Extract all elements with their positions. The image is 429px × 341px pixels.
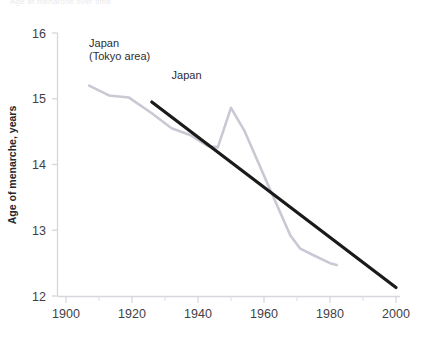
series-label-line: Japan — [89, 37, 119, 49]
y-axis-title: Age of menarche, years — [6, 106, 18, 225]
x-tick-label: 2000 — [382, 307, 410, 321]
line-chart: 1213141516 190019201940196019802000 Age … — [0, 0, 429, 341]
y-tick-label: 12 — [32, 290, 46, 304]
series-label-line: (Tokyo area) — [89, 50, 150, 62]
series-annotations: Japan(Tokyo area)Japan — [89, 37, 201, 81]
y-tick-label: 14 — [32, 158, 46, 172]
axis-lines — [58, 33, 401, 297]
x-tick-label: 1920 — [118, 307, 146, 321]
chart-figure: Age at menarche over time 1213141516 190… — [0, 0, 429, 341]
x-tick-label: 1940 — [184, 307, 212, 321]
y-axis-tick-labels: 1213141516 — [32, 27, 46, 304]
series-lines — [89, 86, 396, 288]
x-tick-label: 1900 — [52, 307, 80, 321]
cut-off-header: Age at menarche over time — [10, 0, 111, 6]
x-tick-label: 1980 — [316, 307, 344, 321]
x-tick-label: 1960 — [250, 307, 278, 321]
y-tick-label: 16 — [32, 27, 46, 41]
y-tick-label: 13 — [32, 224, 46, 238]
series-line — [89, 86, 337, 266]
x-axis-tick-labels: 190019201940196019802000 — [52, 307, 410, 321]
x-axis-minor-ticks — [99, 297, 363, 302]
series-line — [152, 102, 396, 287]
series-label: Japan(Tokyo area) — [89, 37, 150, 62]
y-axis-ticks — [52, 33, 58, 296]
y-tick-label: 15 — [32, 92, 46, 106]
series-label: Japan — [172, 69, 202, 81]
